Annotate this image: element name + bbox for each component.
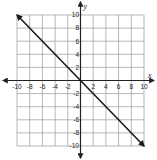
x-axis-label: x xyxy=(147,71,152,80)
y-axis-label: y xyxy=(83,2,88,11)
y-tick-label: -10 xyxy=(70,142,80,149)
y-tick-label: 8 xyxy=(75,24,79,31)
coordinate-plane: -10-8-6-4-2246810-10-8-6-4-2246810 x y xyxy=(0,0,157,160)
x-tick-label: -10 xyxy=(12,83,22,90)
x-tick-label: -8 xyxy=(27,83,33,90)
y-tick-label: 4 xyxy=(75,51,79,58)
y-tick-label: 2 xyxy=(75,64,79,71)
y-tick-label: -8 xyxy=(73,129,79,136)
x-tick-label: 10 xyxy=(140,83,148,90)
y-tick-label: -4 xyxy=(73,103,79,110)
x-tick-label: 6 xyxy=(117,83,121,90)
y-tick-label: -2 xyxy=(73,90,79,97)
x-tick-label: 2 xyxy=(91,83,95,90)
y-tick-label: 10 xyxy=(72,11,80,18)
y-tick-label: 6 xyxy=(75,38,79,45)
x-tick-label: -2 xyxy=(65,83,71,90)
x-tick-label: -4 xyxy=(52,83,58,90)
x-tick-label: 8 xyxy=(129,83,133,90)
x-tick-label: 4 xyxy=(104,83,108,90)
y-tick-label: -6 xyxy=(73,116,79,123)
x-tick-label: -6 xyxy=(40,83,46,90)
